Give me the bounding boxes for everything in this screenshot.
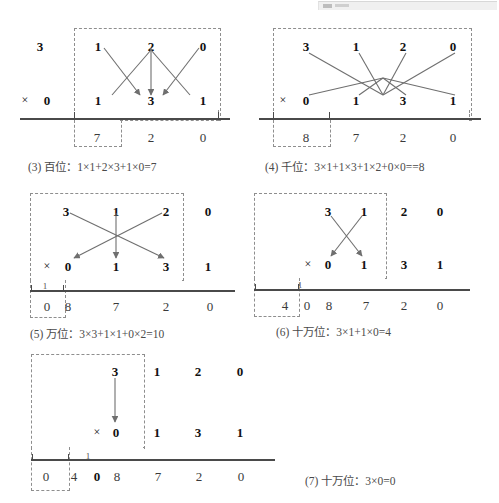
panel-5-result-1: 8 [61, 300, 75, 313]
panel-6-multiplier-outside-0: 3 [397, 258, 411, 271]
panel-5-multiplier-2: 3 [159, 260, 173, 273]
panel-5-multiplier-1: 1 [109, 260, 123, 273]
panel-5-rule-tick [31, 285, 32, 291]
panel-3-rule-tick [74, 112, 75, 119]
panel-3-multiplier-0: 1 [91, 94, 105, 107]
panel-7-result-1: 4 [67, 470, 81, 483]
panel-6-multiplier-1: 1 [357, 258, 371, 271]
panel-3: 3 1 2 0 × 0 1 3 1 7 2 0 [0, 0, 250, 180]
panel-4-result-2: 2 [396, 131, 410, 144]
panel-3-multiplier-1: 3 [144, 94, 158, 107]
panel-7-rule-tick [32, 454, 33, 460]
panel-4-multiplier-2: 3 [396, 94, 410, 107]
panel-4-caption: (4) 千位：3×1+1×3+1×2+0×0==8 [265, 160, 424, 174]
panel-5-result-0: 0 [40, 300, 54, 313]
panel-3-caption: (3) 百位：1×1+2×3+1×0=7 [28, 160, 156, 174]
panel-5-times-symbol: × [40, 260, 54, 272]
panel-7-result-4: 7 [151, 470, 165, 483]
panel-7: 3 1 2 0 × 0 1 3 1 1 0 4 0 8 7 2 0 (7) 十万… [0, 350, 499, 503]
panel-4-times-symbol: × [276, 94, 290, 106]
panel-6-result-2: 8 [322, 299, 336, 312]
panel-7-result-6: 0 [234, 470, 248, 483]
panel-3-multiplier-2: 1 [196, 94, 210, 107]
panel-4-rule [259, 118, 481, 120]
panel-7-times-symbol: × [90, 426, 104, 438]
panel-6-result-1: 0 [300, 299, 314, 312]
panel-7-result-2: 0 [90, 470, 104, 483]
panel-3-rule [20, 118, 230, 120]
figure-canvas: 3 1 2 0 × 0 1 3 1 7 2 0 [0, 0, 499, 503]
panel-4-multiplier-0: 0 [299, 94, 313, 107]
panel-4-multiplier-3: 1 [446, 94, 460, 107]
panel-3-rule-tick-2 [218, 112, 219, 119]
panel-6-rule-tick [255, 284, 256, 290]
panel-4-multiplier-1: 1 [349, 94, 363, 107]
panel-5-rule-tick-2 [63, 285, 64, 291]
panel-3-result-0: 7 [90, 131, 104, 144]
panel-3-result-1: 2 [144, 131, 158, 144]
panel-4-result-1: 7 [349, 131, 363, 144]
panel-7-multiplier-0: 0 [109, 426, 123, 439]
panel-4-arrows [250, 0, 499, 180]
panel-3-times-symbol: × [18, 94, 32, 106]
panel-5-caption: (5) 万位：3×3+1×1+0×2=10 [30, 327, 164, 341]
panel-6-times-symbol: × [301, 258, 315, 270]
panel-4-rule-tick [273, 112, 274, 119]
panel-6-rule-tick-2 [298, 284, 299, 290]
panel-6-result-0: 4 [278, 299, 292, 312]
panel-5: 3 1 2 0 × 0 1 3 1 1 0 8 7 2 0 (5) 万位：3×3… [0, 180, 250, 350]
panel-3-multiplier-outside-0: 0 [40, 94, 54, 107]
panel-7-rule-tick-2 [68, 454, 69, 460]
panel-7-multiplier-outside-0: 1 [150, 426, 164, 439]
panel-6-result-4: 2 [397, 299, 411, 312]
panel-6-multiplier-0: 0 [321, 258, 335, 271]
panel-5-result-2: 7 [109, 300, 123, 313]
panel-7-multiplier-outside-1: 3 [191, 426, 205, 439]
panel-7-result-3: 8 [110, 470, 124, 483]
panel-4-rule-tick-2 [329, 112, 330, 119]
panel-6-result-3: 7 [359, 299, 373, 312]
panel-6-result-5: 0 [433, 299, 447, 312]
panel-6-caption: (6) 十万位：3×1+1×0=4 [276, 325, 391, 339]
panel-3-arrows [0, 0, 250, 180]
panel-5-multiplier-0: 0 [61, 260, 75, 273]
panel-7-result-0: 0 [39, 470, 53, 483]
panel-5-multiplier-outside-0: 1 [201, 260, 215, 273]
panel-4: 3 1 2 0 × 0 1 3 1 8 7 2 0 (4) 千位：3×1+1×3… [250, 0, 499, 180]
panel-6: 3 1 2 0 × 0 1 3 1 1 4 0 8 7 2 0 (6) 十万位：… [250, 180, 499, 350]
panel-5-result-3: 2 [159, 300, 173, 313]
panel-3-result-2: 0 [196, 131, 210, 144]
panel-6-multiplier-outside-1: 1 [433, 258, 447, 271]
panel-7-multiplier-outside-2: 1 [233, 426, 247, 439]
panel-5-result-4: 0 [203, 300, 217, 313]
panel-4-result-0: 8 [299, 131, 313, 144]
panel-7-result-5: 2 [192, 470, 206, 483]
panel-5-rule [30, 290, 235, 292]
panel-7-caption: (7) 十万位：3×0=0 [305, 474, 396, 488]
panel-4-result-3: 0 [446, 131, 460, 144]
panel-6-rule [254, 289, 470, 291]
